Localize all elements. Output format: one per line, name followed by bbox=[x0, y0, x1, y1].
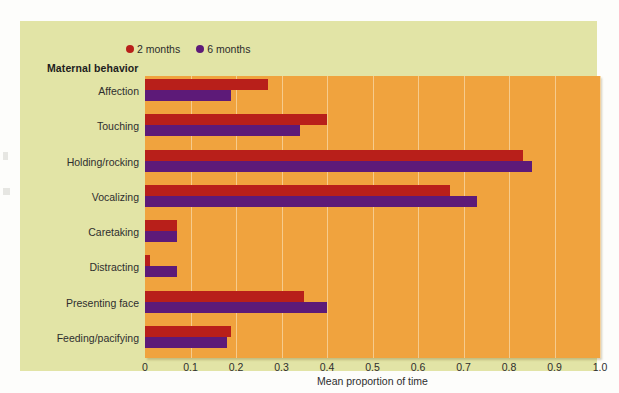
scan-artifact bbox=[3, 152, 8, 160]
gridline bbox=[418, 76, 419, 358]
bar bbox=[145, 90, 231, 101]
legend-item: 2 months bbox=[126, 43, 180, 55]
group-axis-title: Maternal behavior bbox=[47, 62, 139, 74]
x-tick-label: 0.3 bbox=[274, 361, 289, 373]
bar bbox=[145, 231, 177, 242]
category-label: Feeding/pacifying bbox=[19, 332, 139, 344]
legend-dot-icon bbox=[126, 45, 134, 53]
gridline bbox=[373, 76, 374, 358]
bar bbox=[145, 161, 532, 172]
x-axis-title: Mean proportion of time bbox=[145, 375, 600, 387]
gridline bbox=[555, 76, 556, 358]
category-label: Caretaking bbox=[19, 226, 139, 238]
legend-dot-icon bbox=[196, 45, 204, 53]
bar bbox=[145, 150, 523, 161]
category-label: Distracting bbox=[19, 261, 139, 273]
category-label: Affection bbox=[19, 85, 139, 97]
x-tick-label: 0.5 bbox=[365, 361, 380, 373]
bar bbox=[145, 185, 450, 196]
x-tick-label: 0 bbox=[142, 361, 148, 373]
bar bbox=[145, 266, 177, 277]
bar bbox=[145, 114, 327, 125]
category-label: Touching bbox=[19, 120, 139, 132]
bar bbox=[145, 337, 227, 348]
x-tick-label: 0.8 bbox=[502, 361, 517, 373]
category-label: Holding/rocking bbox=[19, 156, 139, 168]
x-tick-label: 0.1 bbox=[183, 361, 198, 373]
x-axis-tick-labels: 00.10.20.30.40.50.60.70.80.91.0 bbox=[145, 361, 600, 375]
gridline bbox=[464, 76, 465, 358]
category-label-list: AffectionTouchingHolding/rockingVocalizi… bbox=[20, 76, 139, 358]
chart-panel: 2 months6 months Maternal behavior Affec… bbox=[20, 21, 597, 371]
bar bbox=[145, 220, 177, 231]
plot-area bbox=[145, 76, 600, 358]
x-tick-label: 0.4 bbox=[320, 361, 335, 373]
x-tick-label: 1.0 bbox=[593, 361, 608, 373]
bar bbox=[145, 79, 268, 90]
x-tick-label: 0.9 bbox=[547, 361, 562, 373]
bar bbox=[145, 291, 304, 302]
legend-item: 6 months bbox=[196, 43, 250, 55]
bar bbox=[145, 326, 231, 337]
legend-label: 6 months bbox=[207, 43, 250, 55]
bar bbox=[145, 125, 300, 136]
scan-artifact bbox=[3, 188, 10, 195]
x-tick-label: 0.2 bbox=[229, 361, 244, 373]
bar bbox=[145, 255, 150, 266]
gridline bbox=[509, 76, 510, 358]
gridline bbox=[600, 76, 601, 358]
category-label: Vocalizing bbox=[19, 191, 139, 203]
chart-legend: 2 months6 months bbox=[126, 43, 250, 55]
bar bbox=[145, 302, 327, 313]
x-tick-label: 0.7 bbox=[456, 361, 471, 373]
gridline bbox=[327, 76, 328, 358]
figure-page: 2 months6 months Maternal behavior Affec… bbox=[0, 0, 619, 393]
x-tick-label: 0.6 bbox=[411, 361, 426, 373]
bar bbox=[145, 196, 477, 207]
category-label: Presenting face bbox=[19, 297, 139, 309]
legend-label: 2 months bbox=[137, 43, 180, 55]
